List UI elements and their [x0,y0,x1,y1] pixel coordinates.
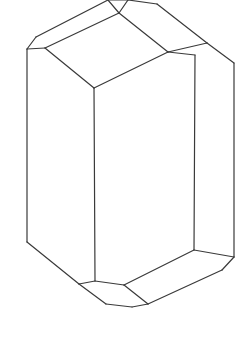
crystal-edge-QR [194,250,234,257]
crystal-edge-MN [27,242,79,284]
crystal-edge-LH [94,52,168,88]
crystal-diagram [0,0,244,341]
crystal-edge-HJ [168,43,207,52]
crystal-edge-FG [27,48,45,49]
crystal-edge-AD [108,0,119,13]
crystal-edge-RS [222,257,234,270]
crystal-edge-BC [128,0,157,4]
crystal-edge-PQ [124,250,194,285]
crystal-edge-HI [168,52,195,55]
crystal-edge-JK [207,43,234,63]
crystal-edge-GL [45,48,94,88]
crystal-edges [27,0,234,307]
crystal-edge-UV [106,304,132,307]
crystal-edge-CJ [157,4,207,43]
crystal-edge-PT [124,285,148,304]
crystal-edge-NU [79,284,106,304]
crystal-edge-IQ [194,55,195,250]
crystal-edge-AE [36,0,108,37]
crystal-edge-GD [45,13,119,48]
crystal-edge-NO [79,281,95,284]
crystal-edge-DH [119,13,168,52]
crystal-edge-ST [148,270,222,304]
crystal-edge-OP [95,281,124,285]
crystal-edge-VT [132,304,148,307]
crystal-edge-BD [119,0,128,13]
crystal-edge-LO [94,88,95,281]
crystal-edge-EF [27,37,36,49]
